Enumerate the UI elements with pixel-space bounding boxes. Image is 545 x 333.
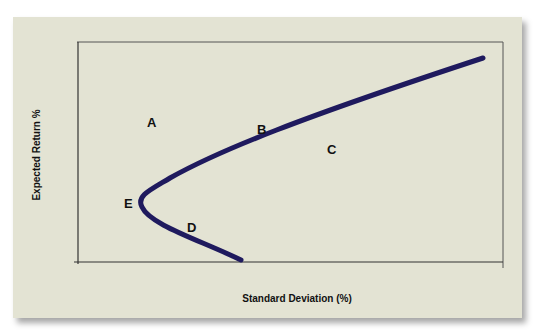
point-label-a: A xyxy=(147,115,157,130)
point-label-b: B xyxy=(257,122,266,137)
x-axis-label: Standard Deviation (%) xyxy=(242,293,351,304)
y-axis-label: Expected Return % xyxy=(31,109,42,200)
point-label-e: E xyxy=(124,196,133,211)
point-label-c: C xyxy=(327,142,337,157)
efficient-frontier-chart: A B C D E Standard Deviation (%) Expecte… xyxy=(0,0,545,333)
point-label-d: D xyxy=(187,220,196,235)
